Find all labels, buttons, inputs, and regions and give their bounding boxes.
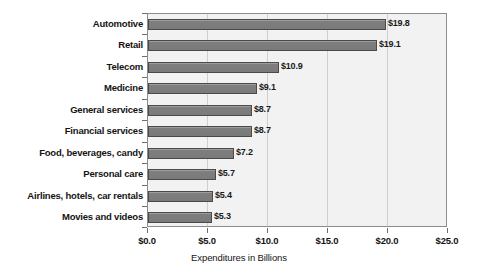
plot-area bbox=[147, 13, 447, 227]
x-tick bbox=[267, 228, 268, 233]
category-label-general-services: General services bbox=[1, 104, 143, 115]
category-label-automotive: Automotive bbox=[1, 18, 143, 29]
y-tick bbox=[142, 120, 147, 121]
bar-financial-services bbox=[148, 126, 252, 137]
y-tick bbox=[142, 13, 147, 14]
bar-food-beverages-candy bbox=[148, 148, 234, 159]
category-axis-labels: Automotive Retail Telecom Medicine Gener… bbox=[0, 13, 143, 227]
x-tick-label-5: $5.0 bbox=[177, 235, 237, 246]
bar-telecom bbox=[148, 62, 279, 73]
x-tick bbox=[207, 228, 208, 233]
category-label-airlines-hotels-car-rentals: Airlines, hotels, car rentals bbox=[1, 190, 143, 201]
y-tick bbox=[142, 206, 147, 207]
category-label-financial-services: Financial services bbox=[1, 125, 143, 136]
bar-retail bbox=[148, 40, 377, 51]
category-label-food-beverages-candy: Food, beverages, candy bbox=[1, 147, 143, 158]
category-label-retail: Retail bbox=[1, 39, 143, 50]
bar-movies-and-videos bbox=[148, 212, 212, 223]
y-tick bbox=[142, 34, 147, 35]
bar-automotive bbox=[148, 19, 386, 30]
value-label-food-beverages-candy: $7.2 bbox=[236, 147, 253, 158]
value-label-automotive: $19.8 bbox=[388, 18, 410, 29]
category-label-medicine: Medicine bbox=[1, 82, 143, 93]
x-tick bbox=[327, 228, 328, 233]
x-tick bbox=[447, 228, 448, 233]
bar-chart: $19.8 $19.1 $10.9 $9.1 $8.7 $8.7 $7.2 $5… bbox=[0, 0, 478, 273]
value-label-financial-services: $8.7 bbox=[254, 125, 271, 136]
x-tick bbox=[147, 228, 148, 233]
value-label-telecom: $10.9 bbox=[281, 61, 303, 72]
y-tick bbox=[142, 163, 147, 164]
y-tick bbox=[142, 185, 147, 186]
value-label-retail: $19.1 bbox=[379, 39, 401, 50]
value-label-general-services: $8.7 bbox=[254, 104, 271, 115]
value-label-movies-and-videos: $5.3 bbox=[214, 211, 231, 222]
x-axis-title: Expenditures in Billions bbox=[0, 252, 478, 263]
value-label-medicine: $9.1 bbox=[259, 82, 276, 93]
x-tick bbox=[387, 228, 388, 233]
bar-personal-care bbox=[148, 169, 216, 180]
bar-airlines-hotels-car-rentals bbox=[148, 191, 213, 202]
category-label-movies-and-videos: Movies and videos bbox=[1, 211, 143, 222]
category-label-personal-care: Personal care bbox=[1, 168, 143, 179]
y-tick bbox=[142, 77, 147, 78]
y-tick bbox=[142, 56, 147, 57]
y-tick bbox=[142, 142, 147, 143]
x-tick-label-0: $0.0 bbox=[117, 235, 177, 246]
category-label-telecom: Telecom bbox=[1, 61, 143, 72]
bar-medicine bbox=[148, 83, 257, 94]
y-tick bbox=[142, 99, 147, 100]
x-tick-label-10: $10.0 bbox=[237, 235, 297, 246]
x-tick-label-15: $15.0 bbox=[297, 235, 357, 246]
value-label-airlines-hotels-car-rentals: $5.4 bbox=[215, 190, 232, 201]
x-tick-label-25: $25.0 bbox=[417, 235, 477, 246]
bar-general-services bbox=[148, 105, 252, 116]
x-tick-label-20: $20.0 bbox=[357, 235, 417, 246]
value-label-personal-care: $5.7 bbox=[218, 168, 235, 179]
